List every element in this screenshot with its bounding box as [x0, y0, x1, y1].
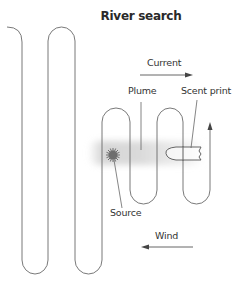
path-arrow-up-icon: [208, 122, 213, 130]
current-label: Current: [147, 57, 181, 68]
source-leader-line: [114, 160, 122, 208]
scent-print-leader-line: [191, 100, 197, 148]
scent-print-label: Scent print: [181, 85, 231, 96]
diagram-graphics: [0, 0, 242, 289]
scent-print-shape: [166, 147, 201, 160]
river-search-diagram: River search Current Plume Scent print S…: [0, 0, 242, 289]
plume-label: Plume: [128, 85, 157, 96]
source-label: Source: [110, 207, 141, 218]
current-arrow-icon: [140, 73, 193, 78]
source-icon: [106, 148, 120, 162]
wind-arrow-icon: [141, 245, 193, 250]
wind-label: Wind: [155, 230, 178, 241]
diagram-title: River search: [0, 9, 242, 23]
